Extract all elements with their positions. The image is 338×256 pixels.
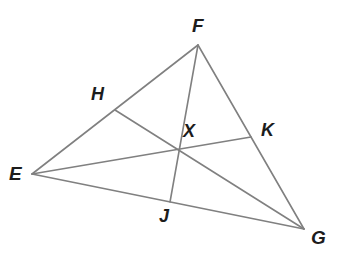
median-EK xyxy=(32,137,251,174)
point-label-K: K xyxy=(261,121,274,139)
vertex-label-G: G xyxy=(311,228,326,247)
vertex-label-F: F xyxy=(192,16,204,35)
centroid-label-X: X xyxy=(183,122,195,140)
triangle-medians-diagram: E F G H J K X xyxy=(0,0,338,256)
point-label-H: H xyxy=(91,85,104,103)
vertex-label-E: E xyxy=(9,164,22,183)
median-GH xyxy=(115,110,304,229)
point-label-J: J xyxy=(159,207,169,225)
